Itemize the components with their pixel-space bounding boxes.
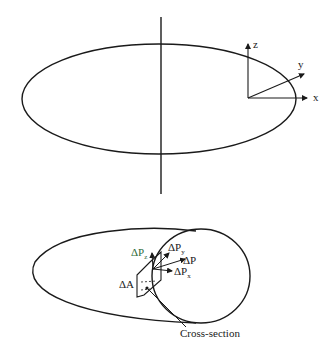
- force-y-label: ΔPy: [168, 242, 185, 253]
- cross-section-label: Cross-section: [180, 328, 240, 339]
- body-ellipse: [22, 44, 296, 154]
- force-x-label: ΔPx: [174, 266, 191, 277]
- axis-label-z: z: [253, 39, 258, 50]
- cross-section-circle: [152, 229, 250, 323]
- area-label: ΔA: [119, 279, 134, 290]
- diagram-canvas: [0, 0, 331, 360]
- axis-label-x: x: [313, 92, 319, 103]
- force-z-label: ΔPz: [131, 247, 147, 258]
- axis-label-y: y: [298, 59, 304, 70]
